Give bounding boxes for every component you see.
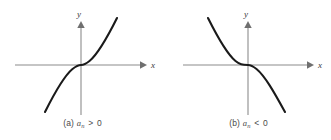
panel-a-caption: (a) an > 0 [0,118,165,129]
y-axis-label-b: y [243,9,248,19]
panel-a-relation: > [87,118,94,128]
cubic-leading-coefficient-figure: x y (a) an > 0 x y [0,0,331,140]
panel-a: x y (a) an > 0 [0,0,165,140]
y-axis-arrow-icon-b [244,21,251,28]
panel-b-relation: < [253,118,260,128]
panel-a-tag: (a) [63,118,74,128]
panel-b-caption: (b) an < 0 [166,118,331,129]
plot-a: x y [0,0,165,120]
panel-b-value: 0 [263,118,268,128]
panel-b: x y (b) an < 0 [166,0,331,140]
panel-b-tag: (b) [229,118,240,128]
panel-a-value: 0 [97,118,102,128]
panel-b-subscript: n [247,122,250,129]
x-axis-label-b: x [317,60,322,70]
x-axis-label-a: x [150,60,155,70]
plot-b: x y [166,0,331,120]
y-axis-arrow-icon-a [77,21,84,28]
panel-a-subscript: n [81,122,84,129]
x-axis-arrow-icon-b [307,61,314,68]
y-axis-label-a: y [76,9,81,19]
x-axis-arrow-icon-a [140,61,147,68]
